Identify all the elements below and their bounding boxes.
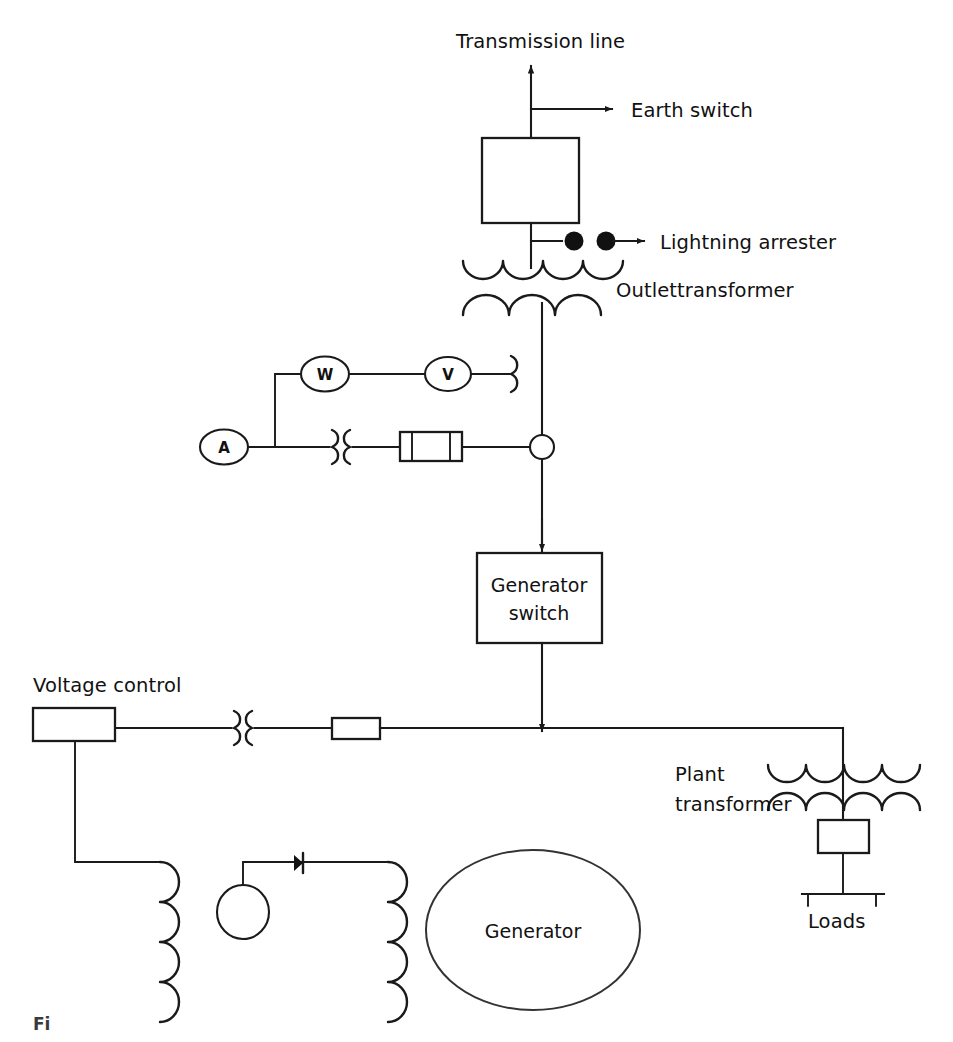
metering-fuse-symbol[interactable] [400, 432, 462, 461]
loads-label: Loads [808, 910, 865, 933]
diagram-svg: Transmission line Earth switch Lightning… [0, 0, 953, 1042]
lightning-arrester-label: Lightning arrester [660, 231, 837, 254]
outlet-transformer-secondary-winding [463, 295, 601, 315]
voltmeter-label: V [442, 366, 454, 384]
single-line-diagram-canvas: Transmission line Earth switch Lightning… [0, 0, 953, 1042]
outlet-transformer-label: Outlettransformer [616, 279, 795, 302]
field-winding-left-coil [160, 862, 179, 1022]
loads-busbar [802, 894, 884, 906]
voltage-metering-branch: W V [275, 356, 517, 447]
figure-caption: Fi [33, 1014, 50, 1034]
arrester-electrode-left-icon [565, 232, 584, 251]
plant-transformer-label-line1: Plant [675, 763, 725, 786]
rectifier-diode [294, 853, 303, 873]
plant-transformer-label-line2: transformer [675, 793, 793, 816]
generator-switch-box[interactable] [477, 553, 602, 643]
excitation-ct-right-half-icon [246, 711, 252, 745]
generator-label: Generator [485, 920, 582, 942]
field-winding-right-coil [388, 862, 407, 1022]
current-transformer-left-half-icon [332, 430, 338, 464]
generator-switch-label-line1: Generator [491, 574, 588, 596]
earth-switch-label: Earth switch [631, 99, 753, 122]
voltage-control-label: Voltage control [33, 674, 181, 697]
exciter-symbol[interactable] [217, 885, 269, 939]
ammeter-label: A [218, 439, 230, 457]
voltage-control-box[interactable] [33, 708, 115, 741]
current-metering-branch: A [200, 430, 554, 465]
current-transformer-right-half-icon [344, 430, 350, 464]
wattmeter-input-wire [275, 374, 302, 447]
wattmeter-label: W [317, 366, 334, 384]
excitation-resistor-symbol[interactable] [332, 718, 380, 739]
generator-switch-label-line2: switch [509, 602, 570, 624]
lightning-arrester[interactable] [531, 232, 644, 251]
voltage-transformer-symbol [511, 356, 517, 392]
main-breaker-box[interactable] [482, 138, 579, 223]
excitation-ct-left-half-icon [234, 711, 240, 745]
transmission-line-label: Transmission line [455, 30, 625, 53]
loads-switch-box[interactable] [818, 820, 869, 853]
bus-current-transformer-ring [530, 435, 554, 459]
diode-triangle-icon [294, 855, 303, 871]
voltage-control-to-field-wire [75, 741, 160, 862]
outlet-transformer-primary-winding [463, 261, 623, 279]
